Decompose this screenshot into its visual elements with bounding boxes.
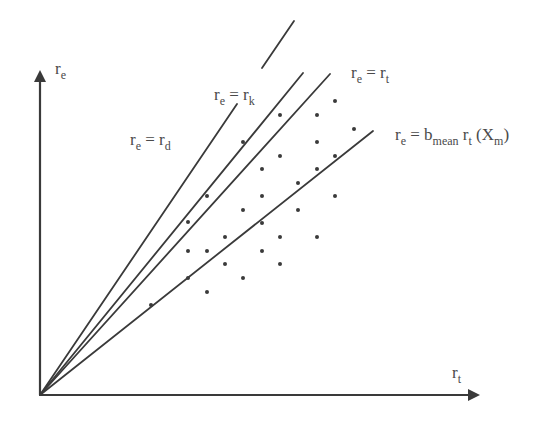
data-point: [260, 167, 264, 171]
y-axis-label: re: [55, 59, 66, 82]
data-point: [315, 235, 319, 239]
data-point: [315, 140, 319, 144]
axes: rt re: [34, 59, 480, 401]
data-point: [260, 249, 264, 253]
data-point: [205, 290, 209, 294]
line-re-eq-bmean: [40, 131, 373, 395]
label-re-eq-bmean-rt-xm: re = bmean rt (Xm): [395, 125, 509, 148]
data-point: [260, 221, 264, 225]
label-re-eq-rk: re = rk: [214, 85, 255, 108]
data-point: [333, 99, 337, 103]
data-point: [149, 303, 153, 307]
line-labels: re = rd re = rk re = rt re = bmean rt (X…: [130, 63, 509, 153]
reference-lines: [40, 21, 373, 395]
data-point: [333, 154, 337, 158]
diagram-canvas: rt re re = rd re = rk re = rt re = bmean…: [0, 0, 559, 421]
line-re-eq-rk-extension: [262, 21, 294, 68]
data-point: [205, 194, 209, 198]
data-point: [241, 208, 245, 212]
scatter-points: [149, 99, 356, 307]
data-point: [296, 181, 300, 185]
data-point: [186, 220, 190, 224]
data-point: [241, 276, 245, 280]
data-point: [241, 140, 245, 144]
line-re-eq-rt: [40, 74, 330, 395]
data-point: [186, 276, 190, 280]
label-re-eq-rd: re = rd: [130, 130, 171, 153]
data-point: [223, 235, 227, 239]
y-axis-arrow-icon: [34, 70, 46, 82]
data-point: [223, 262, 227, 266]
label-re-eq-rt: re = rt: [351, 63, 390, 86]
data-point: [278, 154, 282, 158]
data-point: [186, 249, 190, 253]
data-point: [315, 113, 319, 117]
data-point: [315, 167, 319, 171]
x-axis-arrow-icon: [468, 389, 480, 401]
data-point: [352, 127, 356, 131]
data-point: [278, 262, 282, 266]
line-re-eq-rk: [40, 73, 303, 395]
data-point: [260, 194, 264, 198]
x-axis-label: rt: [452, 363, 462, 386]
data-point: [296, 208, 300, 212]
data-point: [205, 249, 209, 253]
data-point: [333, 194, 337, 198]
data-point: [278, 113, 282, 117]
data-point: [278, 235, 282, 239]
